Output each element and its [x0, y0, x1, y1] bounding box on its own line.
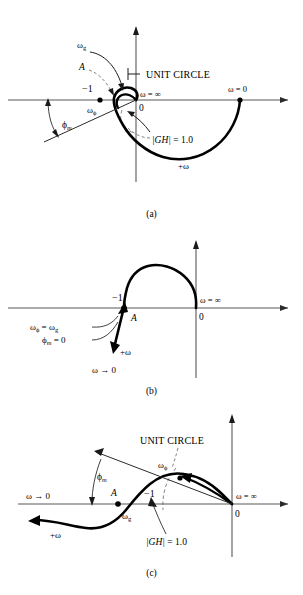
real-axis-arrow-c: [280, 501, 288, 507]
label-plus-omega-a: +ω: [178, 161, 189, 171]
locus-curve-b: [124, 265, 196, 308]
locus-curve-c: [34, 473, 232, 528]
label-omega-g-c: ωg: [122, 511, 132, 522]
critical-point-marker-a: [97, 97, 102, 102]
point-a-marker-c: [115, 501, 121, 507]
nyquist-plot-c: UNIT CIRCLE ωϕ ϕm A ωg −1 ω → 0 +ω |GH| …: [0, 402, 303, 567]
label-omega-to-zero-b: ω → 0: [92, 365, 116, 375]
phase-margin-arc-arrow-top-a: [45, 98, 51, 106]
label-minus-one-c: −1: [144, 488, 155, 499]
label-gh-c: |GH| = 1.0: [146, 537, 187, 547]
omega-zero-marker-a: [237, 97, 242, 102]
label-omega-inf-c: ω = ∞: [236, 491, 257, 501]
caption-c: (c): [0, 568, 303, 578]
imag-axis-arrow-c: [229, 414, 235, 423]
axis-group-b: [8, 240, 288, 378]
omega-phi-marker-c: [177, 475, 182, 480]
leader-unit-circle-c: [172, 448, 178, 468]
phase-margin-arc-arrow-c: [89, 497, 95, 506]
imag-axis-arrow-b: [193, 240, 199, 249]
label-phi-m-c: ϕm: [97, 472, 107, 483]
leader-omega-g-a: [90, 52, 122, 86]
label-point-a-a: A: [78, 62, 85, 72]
nyquist-plot-a: ωg A UNIT CIRCLE −1 ωϕ ϕm ω = ∞ 0 ω = 0 …: [0, 12, 303, 212]
label-phi-m-a: ϕm: [62, 120, 72, 131]
leader-gh-c: [152, 502, 166, 534]
leader-omega-eq-b: [92, 316, 118, 327]
caption-a: (a): [0, 209, 303, 219]
label-omega-phi-eq-g-b: ωϕ = ωg: [30, 322, 59, 333]
label-origin-b: 0: [199, 312, 204, 322]
real-axis-arrow-b: [280, 305, 288, 311]
label-gh-a: |GH| = 1.0: [152, 135, 193, 145]
label-omega-to-zero-c: ω → 0: [26, 491, 50, 501]
label-phi-m-zero-b: ϕm = 0: [42, 335, 66, 346]
locus-arrow-left-c: [28, 515, 40, 526]
label-omega-inf-a: ω = ∞: [140, 89, 161, 99]
label-minus-one-a: −1: [82, 83, 93, 94]
label-omega-inf-b: ω = ∞: [200, 295, 221, 305]
label-omega-phi-a: ωϕ: [87, 105, 97, 116]
label-omega-g-a: ωg: [77, 40, 87, 51]
label-minus-one-b: −1: [112, 292, 123, 303]
nyquist-plot-b: ωϕ = ωg ϕm = 0 −1 A +ω ω → 0 ω = ∞ 0: [0, 228, 303, 388]
figure-container: ωg A UNIT CIRCLE −1 ωϕ ϕm ω = ∞ 0 ω = 0 …: [0, 0, 303, 595]
label-unit-circle-c: UNIT CIRCLE: [140, 435, 204, 446]
label-plus-omega-b: +ω: [120, 347, 131, 357]
label-point-a-c: A: [110, 488, 117, 498]
label-point-a-b: A: [130, 313, 137, 323]
leader-gh-arrow-line-a: [130, 113, 150, 132]
real-axis-arrow-a: [280, 97, 288, 103]
label-omega-zero-a: ω = 0: [228, 84, 247, 94]
imag-axis-arrow-a: [133, 26, 139, 35]
caption-b: (b): [0, 386, 303, 396]
label-omega-phi-c: ωϕ: [158, 460, 168, 471]
leader-phi-m-b: [92, 322, 118, 340]
label-plus-omega-c: +ω: [50, 530, 61, 540]
label-unit-circle-a: UNIT CIRCLE: [146, 69, 210, 80]
label-origin-c: 0: [235, 509, 240, 519]
leader-point-a-arrow-a: [108, 88, 114, 96]
label-origin-a: 0: [139, 103, 144, 113]
